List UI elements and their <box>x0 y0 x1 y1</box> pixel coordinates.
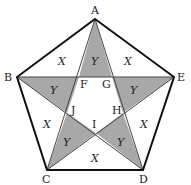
region-label-x-top-right: X <box>123 55 133 68</box>
inner-label-h: H <box>112 104 122 117</box>
pentagram-diagram: A B E C D F G H I J X X X X X Y Y Y Y Y <box>0 0 191 185</box>
inner-label-g: G <box>102 78 111 91</box>
vertex-label-e: E <box>177 71 185 84</box>
inner-label-i: I <box>92 118 96 131</box>
region-label-x-top-left: X <box>57 55 67 68</box>
vertex-label-b: B <box>4 71 12 84</box>
vertex-label-c: C <box>42 173 50 185</box>
vertex-label-a: A <box>90 4 100 17</box>
region-label-x-left: X <box>42 118 52 131</box>
region-label-x-right: X <box>139 118 149 131</box>
shaded-triangle-bottom-left <box>47 113 96 170</box>
inner-label-j: J <box>70 104 75 117</box>
region-label-x-bottom: X <box>90 152 100 165</box>
vertex-label-d: D <box>139 173 148 185</box>
inner-label-f: F <box>80 78 88 91</box>
